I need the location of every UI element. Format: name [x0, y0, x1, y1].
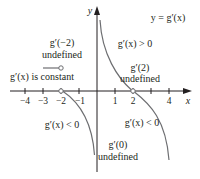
tick-label-4: 4 [167, 96, 172, 106]
open-circle-constant-end [59, 66, 63, 70]
open-circle-neg2 [59, 89, 63, 93]
tick-label-neg3: −3 [38, 96, 48, 106]
y-axis-arrow-icon [94, 6, 100, 15]
negative-right-label: g′(x) < 0 [125, 117, 160, 129]
tick-label-neg2: −2 [56, 96, 66, 106]
positive-label: g′(x) > 0 [118, 38, 153, 50]
tick-label-2: 2 [131, 96, 136, 106]
x-axis [10, 88, 192, 94]
g0-undefined-label: undefined [98, 151, 138, 162]
curve-name-label: y = g′(x) [151, 12, 186, 24]
g-neg2-undefined-label: undefined [42, 49, 82, 60]
g0-label: g′(0) [109, 139, 128, 151]
derivative-graph: −4 −3 −2 −1 1 2 4 x y y = g′(x) g′(−2) u… [0, 0, 200, 179]
negative-left-label: g′(x) < 0 [45, 119, 80, 131]
x-axis-label: x [185, 95, 191, 106]
y-axis [94, 6, 100, 172]
g2-undefined-label: undefined [120, 73, 160, 84]
tick-label-1: 1 [113, 96, 118, 106]
tick-label-neg4: −4 [20, 96, 30, 106]
g-neg2-label: g′(−2) [50, 37, 75, 49]
y-axis-label: y [87, 5, 93, 16]
x-axis-arrow-icon [183, 88, 192, 94]
constant-label: g′(x) is constant [10, 71, 74, 83]
open-circle-pos2 [131, 89, 135, 93]
